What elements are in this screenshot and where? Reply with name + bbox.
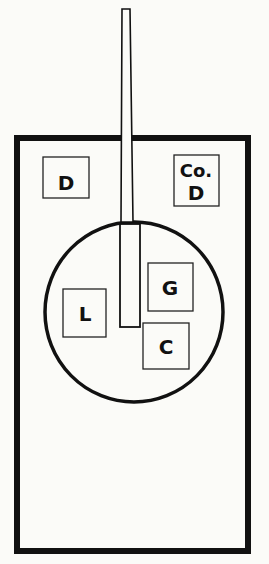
box-l: L bbox=[63, 289, 106, 337]
box-d-label: D bbox=[58, 171, 75, 195]
box-c: C bbox=[143, 323, 189, 369]
box-c-label: C bbox=[159, 335, 174, 359]
box-co-d-label-line1: Co. bbox=[180, 160, 212, 181]
pole-base bbox=[120, 224, 140, 327]
pole bbox=[121, 9, 133, 222]
layout-diagram: D Co. D G L C bbox=[0, 0, 269, 564]
box-co-d: Co. D bbox=[174, 155, 219, 206]
box-d: D bbox=[43, 157, 89, 198]
box-g: G bbox=[148, 263, 193, 311]
box-g-label: G bbox=[162, 276, 178, 300]
box-l-label: L bbox=[79, 302, 92, 326]
box-co-d-label-line2: D bbox=[188, 181, 205, 205]
